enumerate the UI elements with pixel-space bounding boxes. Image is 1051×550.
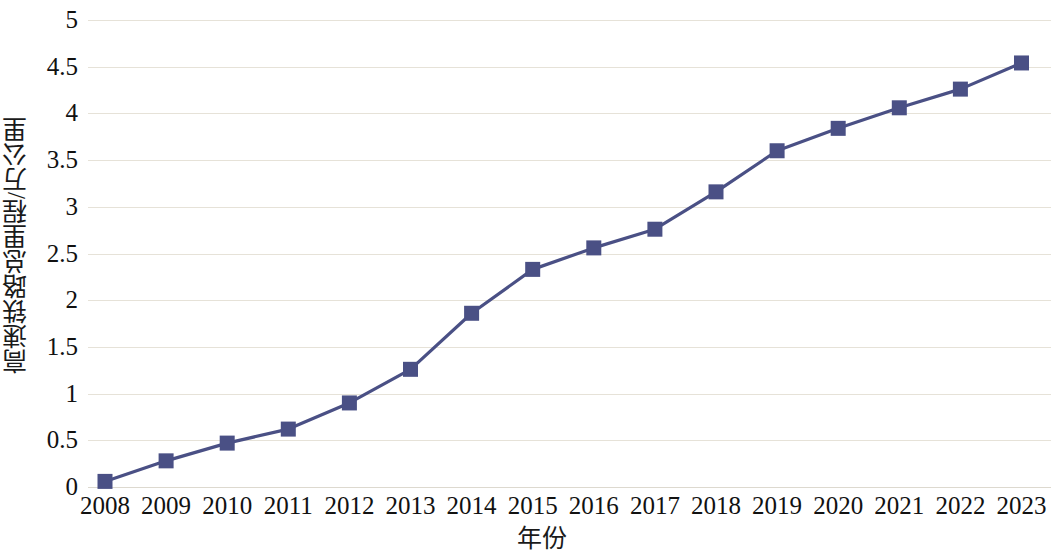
data-point-marker — [831, 121, 846, 136]
x-axis-title: 年份 — [0, 518, 1051, 550]
x-tick-label: 2010 — [202, 492, 252, 520]
x-tick-label: 2021 — [874, 492, 924, 520]
x-tick-label: 2014 — [447, 492, 497, 520]
x-tick-label: 2018 — [691, 492, 741, 520]
data-point-marker — [525, 262, 540, 277]
x-tick-label: 2019 — [752, 492, 802, 520]
data-point-marker — [159, 453, 174, 468]
y-tick-label: 3 — [66, 193, 79, 221]
y-tick-label: 3.5 — [47, 146, 78, 174]
y-axis-tick-labels: 00.511.522.533.544.55 — [34, 0, 82, 550]
y-tick-label: 2 — [66, 286, 79, 314]
y-tick-label: 1.5 — [47, 333, 78, 361]
data-point-marker — [220, 436, 235, 451]
data-point-marker — [342, 395, 357, 410]
data-point-marker — [403, 362, 418, 377]
x-tick-label: 2009 — [141, 492, 191, 520]
data-point-marker — [1014, 55, 1029, 70]
x-tick-label: 2023 — [997, 492, 1047, 520]
data-point-marker — [892, 100, 907, 115]
x-tick-label: 2008 — [80, 492, 130, 520]
y-tick-label: 5 — [66, 6, 79, 34]
line-chart: 高速铁路总里程/万公里 00.511.522.533.544.55 200820… — [0, 0, 1051, 550]
y-axis-title: 高速铁路总里程/万公里 — [0, 0, 34, 490]
x-axis-title-label: 年份 — [517, 525, 567, 550]
data-point-marker — [281, 422, 296, 437]
x-tick-label: 2013 — [386, 492, 436, 520]
data-series-svg — [88, 20, 1051, 487]
x-tick-label: 2022 — [935, 492, 985, 520]
y-tick-label: 0.5 — [47, 426, 78, 454]
y-tick-label: 2.5 — [47, 240, 78, 268]
gridline — [88, 487, 1051, 488]
data-point-marker — [98, 474, 113, 489]
y-tick-label: 4 — [66, 99, 79, 127]
x-tick-label: 2016 — [569, 492, 619, 520]
data-point-marker — [709, 184, 724, 199]
series-line — [105, 63, 1022, 481]
y-axis-title-label: 高速铁路总里程/万公里 — [0, 117, 35, 374]
x-tick-label: 2015 — [508, 492, 558, 520]
plot-area — [88, 20, 1051, 487]
x-tick-label: 2020 — [813, 492, 863, 520]
x-tick-label: 2017 — [630, 492, 680, 520]
x-tick-label: 2011 — [264, 492, 313, 520]
data-point-marker — [953, 82, 968, 97]
y-tick-label: 1 — [66, 380, 79, 408]
data-point-marker — [647, 222, 662, 237]
data-point-marker — [770, 143, 785, 158]
x-tick-label: 2012 — [324, 492, 374, 520]
y-tick-label: 4.5 — [47, 53, 78, 81]
data-point-marker — [464, 306, 479, 321]
data-point-marker — [586, 240, 601, 255]
